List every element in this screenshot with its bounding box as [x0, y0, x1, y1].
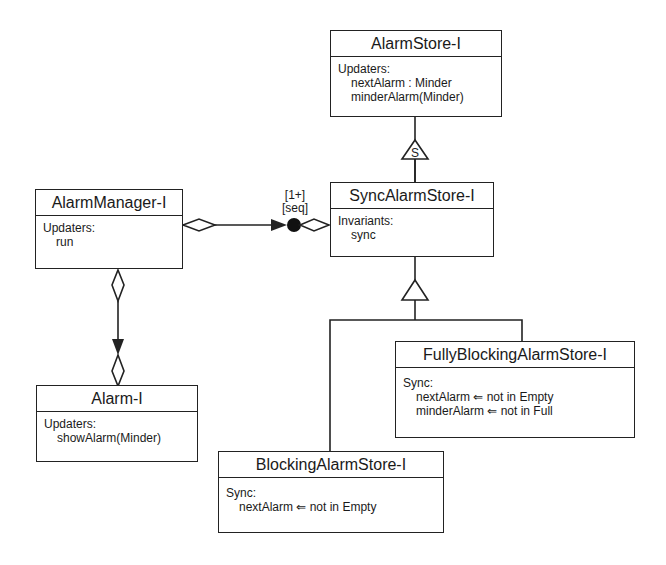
ordering-label: [seq] — [278, 202, 312, 215]
specialization-s-label: S — [411, 146, 419, 160]
class-name: BlockingAlarmStore-I — [219, 452, 443, 478]
section-label: Updaters: — [338, 62, 495, 76]
manager-aggregation-diamond — [183, 219, 215, 231]
class-name: AlarmStore-I — [331, 31, 501, 57]
class-alarm-store[interactable]: AlarmStore-I Updaters: nextAlarm : Minde… — [330, 30, 502, 117]
class-name: Alarm-I — [37, 386, 197, 412]
class-fully-blocking-alarm-store[interactable]: FullyBlockingAlarmStore-I Sync: nextAlar… — [395, 341, 635, 438]
manager-store-arrowhead — [271, 219, 287, 231]
manager-alarm-arrowhead — [112, 339, 124, 355]
sync-entry: nextAlarm ⇐ not in Empty — [403, 390, 628, 404]
class-alarm[interactable]: Alarm-I Updaters: showAlarm(Minder) — [36, 385, 198, 462]
section-label: Updaters: — [44, 417, 191, 431]
class-name: AlarmManager-I — [36, 190, 182, 216]
generalization-triangle — [402, 280, 428, 300]
class-name: SyncAlarmStore-I — [331, 183, 493, 209]
section-label: Updaters: — [43, 221, 176, 235]
sync-entry: minderAlarm ⇐ not in Full — [403, 404, 628, 418]
section-label: Invariants: — [338, 214, 487, 228]
updater-entry: run — [43, 235, 176, 249]
updater-entry: minderAlarm(Minder) — [338, 90, 495, 104]
updater-entry: showAlarm(Minder) — [44, 431, 191, 445]
class-name: FullyBlockingAlarmStore-I — [396, 342, 634, 368]
class-sync-alarm-store[interactable]: SyncAlarmStore-I Invariants: sync — [330, 182, 494, 257]
invariant-entry: sync — [338, 228, 487, 242]
manager-alarm-diamond-top — [112, 270, 124, 301]
sync-entry: nextAlarm ⇐ not in Empty — [226, 500, 437, 514]
section-label: Sync: — [226, 486, 437, 500]
updater-entry: nextAlarm : Minder — [338, 76, 495, 90]
section-label: Sync: — [403, 376, 628, 390]
store-aggregation-diamond — [300, 219, 329, 231]
manager-alarm-diamond-bottom — [112, 355, 124, 386]
class-blocking-alarm-store[interactable]: BlockingAlarmStore-I Sync: nextAlarm ⇐ n… — [218, 451, 444, 533]
class-alarm-manager[interactable]: AlarmManager-I Updaters: run — [35, 189, 183, 269]
